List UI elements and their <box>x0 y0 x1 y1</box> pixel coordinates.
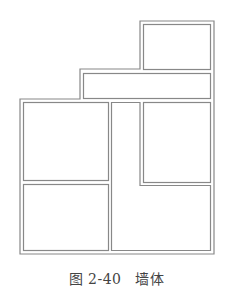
left-bottom-room <box>24 185 109 251</box>
l-shaped-room <box>112 103 211 251</box>
figure-label: 图 2-40 <box>69 268 122 288</box>
right-top-room <box>144 103 211 183</box>
figure-title: 墙体 <box>135 268 164 288</box>
figure-caption: 图 2-40墙体 <box>0 268 233 288</box>
wall-plan-diagram <box>0 0 233 260</box>
band-room <box>84 74 211 99</box>
left-top-room <box>24 103 109 181</box>
top-room <box>144 25 211 70</box>
outer-wall-outline <box>20 21 214 254</box>
